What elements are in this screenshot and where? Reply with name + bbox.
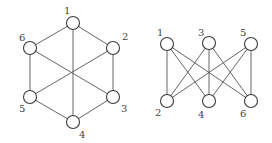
node-6 [245,95,258,108]
edge-4-5 [30,97,73,122]
edge-1-2 [73,23,113,48]
node-label-3: 3 [198,27,204,38]
bipartite-graph: 135246 [155,27,258,120]
node-label-2: 2 [122,31,128,42]
node-1 [67,17,80,30]
node-label-5: 5 [19,103,25,114]
node-label-1: 1 [157,27,163,38]
node-label-4: 4 [198,109,204,120]
hexagon-graph: 123456 [19,5,128,140]
node-2 [107,42,120,55]
edge-6-1 [30,23,73,48]
node-3 [107,91,120,104]
graph-diagram-canvas: 123456 135246 [0,0,272,143]
node-5 [24,91,37,104]
node-5 [245,38,258,51]
node-label-6: 6 [240,108,246,119]
node-2 [161,95,174,108]
node-label-4: 4 [79,129,85,140]
node-6 [24,42,37,55]
node-label-2: 2 [155,107,161,118]
node-3 [203,37,216,50]
node-label-5: 5 [240,27,246,38]
node-label-1: 1 [64,5,70,16]
node-4 [67,116,80,129]
node-1 [161,38,174,51]
node-label-6: 6 [19,32,25,43]
edge-3-4 [73,97,113,122]
node-label-3: 3 [121,103,127,114]
node-4 [203,95,216,108]
